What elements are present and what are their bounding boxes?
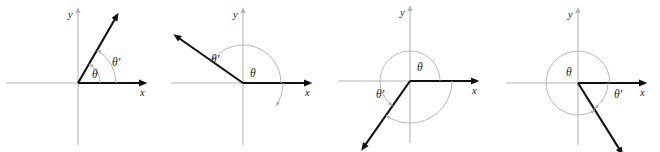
- y-axis-label-2: y: [232, 9, 238, 20]
- theta-arc-arrowhead-4: [590, 110, 595, 114]
- initial-ray-arrowhead-2: [304, 80, 312, 87]
- y-axis-arrowhead: [407, 5, 412, 11]
- angle-panel-3: xyθθ′: [330, 0, 495, 152]
- theta-label-4: θ: [566, 66, 572, 78]
- initial-ray-arrowhead-1: [139, 80, 147, 87]
- theta-label-3: θ: [417, 61, 423, 73]
- y-axis-label-3: y: [399, 7, 405, 18]
- angle-panel-1: xyθθ′: [0, 0, 165, 152]
- angle-diagram-figure: xyθθ′xyθθ′xyθθ′xyθθ′: [0, 0, 660, 152]
- theta-label-1: θ: [92, 68, 98, 80]
- theta-prime-label-4: θ′: [614, 88, 623, 100]
- x-axis-label-1: x: [139, 87, 145, 98]
- theta-arc-2: [212, 45, 281, 83]
- theta-prime-arc-arrowhead-3: [386, 115, 391, 119]
- y-axis-label-4: y: [567, 9, 573, 20]
- initial-ray-arrowhead-4: [639, 80, 647, 87]
- y-axis-arrowhead: [75, 7, 80, 13]
- x-axis-label-3: x: [471, 85, 477, 96]
- initial-ray-arrowhead-3: [471, 78, 479, 85]
- angle-panel-4: xyθθ′: [495, 0, 660, 152]
- y-axis-arrowhead: [240, 7, 245, 13]
- angle-panel-2: xyθθ′: [165, 0, 330, 152]
- terminal-ray-3: [365, 81, 410, 145]
- y-axis-arrowhead: [575, 7, 580, 13]
- theta-prime-arc-arrowhead-2: [276, 101, 280, 106]
- theta-prime-label-1: θ′: [112, 56, 121, 68]
- theta-prime-arc-4: [594, 83, 608, 108]
- y-axis-label-1: y: [67, 9, 73, 20]
- x-axis-label-4: x: [639, 87, 645, 98]
- theta-prime-label-2: θ′: [211, 53, 220, 65]
- theta-label-2: θ: [250, 67, 256, 79]
- theta-prime-label-3: θ′: [376, 88, 385, 100]
- x-axis-label-2: x: [304, 87, 310, 98]
